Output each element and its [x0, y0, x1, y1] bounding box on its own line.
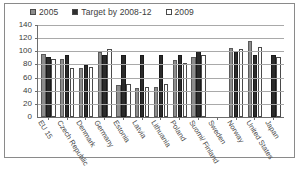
y-axis-tick: [35, 51, 38, 52]
gridline: [38, 104, 284, 105]
bar-s2009: [239, 49, 243, 117]
bar-s2005: [173, 60, 177, 117]
y-axis: 140120100806040200: [12, 25, 34, 117]
gridline: [38, 91, 284, 92]
y-axis-tick-label: 20: [23, 100, 32, 108]
bar-s2009: [89, 67, 93, 117]
gridline: [38, 38, 284, 39]
white-swatch-icon: [166, 9, 172, 15]
bar-s2009: [70, 68, 74, 117]
gridline: [38, 64, 284, 65]
plot-wrapper: 140120100806040200: [12, 25, 284, 120]
plot-area: [37, 25, 284, 118]
chart-screenshot: 2005 Target by 2008-12 2009 140120100806…: [0, 0, 301, 169]
x-axis-label: Japan: [263, 119, 280, 140]
y-axis-tick: [35, 64, 38, 65]
bar-s2009: [51, 59, 55, 117]
x-axis-label: Norway: [225, 119, 245, 144]
bar-s2009: [126, 84, 130, 117]
y-axis-tick: [35, 91, 38, 92]
bar-starget: [196, 51, 200, 117]
legend-item-2005: 2005: [30, 7, 58, 17]
chart-legend: 2005 Target by 2008-12 2009: [30, 7, 194, 17]
gridline: [38, 25, 284, 26]
gridline: [38, 78, 284, 79]
y-axis-tick-label: 80: [23, 60, 32, 68]
bar-s2005: [98, 52, 102, 117]
bar-s2009: [164, 84, 168, 117]
y-axis-tick-label: 140: [19, 21, 32, 29]
y-axis-tick-label: 120: [19, 34, 32, 42]
x-axis-label: EU 15: [36, 119, 53, 141]
y-axis-tick: [35, 78, 38, 79]
black-swatch-icon: [72, 9, 78, 15]
x-axis-label: Poland: [169, 119, 188, 143]
legend-item-target: Target by 2008-12: [72, 7, 151, 17]
x-axis-label: Estonia: [112, 119, 132, 144]
legend-label-target: Target by 2008-12: [81, 7, 151, 17]
bar-s2005: [60, 59, 64, 117]
bar-s2005: [135, 88, 139, 117]
x-axis-labels: EU 15Czech RepublicDenmarkGermanyEstonia…: [37, 119, 283, 167]
gray-swatch-icon: [30, 9, 36, 15]
legend-label-2009: 2009: [175, 7, 194, 17]
bar-starget: [46, 57, 50, 117]
y-axis-tick-label: 40: [23, 87, 32, 95]
y-axis-tick-label: 60: [23, 74, 32, 82]
bar-s2009: [258, 47, 262, 117]
legend-item-2009: 2009: [166, 7, 194, 17]
y-axis-tick-label: 0: [28, 113, 32, 121]
x-axis-label: Latvia: [131, 119, 148, 140]
bar-starget: [234, 51, 238, 117]
y-axis-tick: [35, 25, 38, 26]
y-axis-tick-label: 100: [19, 47, 32, 55]
gridline: [38, 51, 284, 52]
y-axis-tick: [35, 104, 38, 105]
bar-s2009: [107, 49, 111, 117]
bar-s2005: [248, 41, 252, 117]
legend-label-2005: 2005: [39, 7, 58, 17]
y-axis-tick: [35, 38, 38, 39]
bar-s2005: [229, 48, 233, 117]
bar-s2009: [276, 57, 280, 117]
bar-s2005: [191, 57, 195, 117]
bar-s2005: [41, 54, 45, 117]
bar-s2005: [79, 68, 83, 117]
